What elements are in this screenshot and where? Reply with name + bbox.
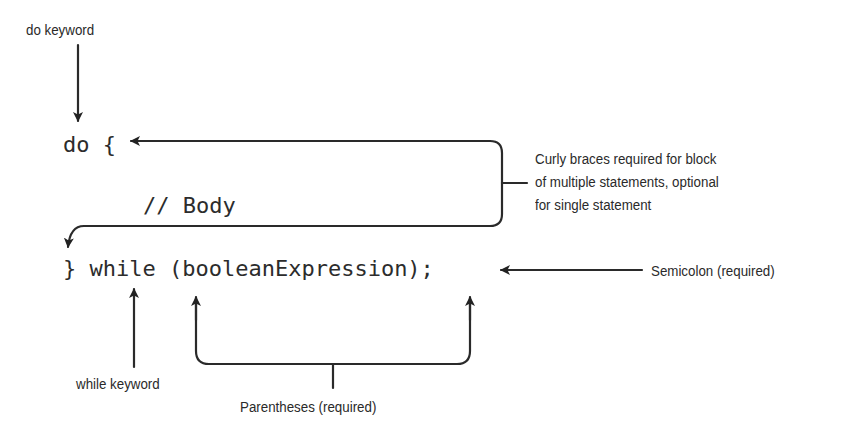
code-line-while: } while (booleanExpression); bbox=[63, 256, 434, 282]
braces-bracket-arrow-top bbox=[68, 141, 502, 247]
parentheses-bracket bbox=[196, 298, 470, 364]
code-line-body-comment: // Body bbox=[143, 193, 236, 219]
do-keyword-label: do keyword bbox=[26, 20, 94, 39]
braces-note-line1: Curly braces required for block bbox=[535, 149, 717, 168]
code-line-do: do { bbox=[63, 132, 116, 158]
do-while-diagram: do keyword do { // Body } while (boolean… bbox=[0, 0, 856, 435]
braces-note-line2: of multiple statements, optional bbox=[535, 172, 719, 191]
while-keyword-label: while keyword bbox=[76, 374, 160, 393]
connector-arrows bbox=[0, 0, 856, 435]
semicolon-label: Semicolon (required) bbox=[651, 261, 775, 280]
parentheses-label: Parentheses (required) bbox=[240, 397, 376, 416]
braces-note-line3: for single statement bbox=[535, 195, 651, 214]
